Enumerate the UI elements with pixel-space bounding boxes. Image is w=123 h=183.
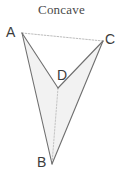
vertex-label-b: B — [37, 155, 46, 169]
polygon-canvas — [0, 0, 123, 183]
edge-ac-dotted — [22, 33, 103, 41]
concave-polygon-figure: Concave A C D B — [0, 0, 123, 183]
vertex-label-d: D — [57, 68, 67, 82]
vertex-label-a: A — [6, 25, 15, 39]
polygon-fill — [22, 33, 103, 164]
vertex-label-c: C — [105, 32, 115, 46]
